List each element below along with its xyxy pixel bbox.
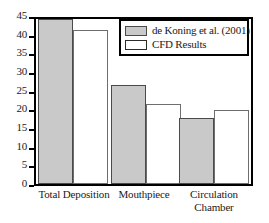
bar-mouthpiece-cfd bbox=[146, 104, 181, 184]
legend-label: CFD Results bbox=[152, 39, 206, 50]
y-tick-label: 20 bbox=[16, 103, 27, 114]
x-label-line: Chamber bbox=[174, 201, 254, 214]
bar-circulation-chamber-de-koning bbox=[179, 118, 214, 184]
legend-label: de Koning et al. (2001) bbox=[152, 25, 250, 36]
y-tick-label: 35 bbox=[16, 47, 27, 58]
bar-group-total-deposition bbox=[38, 19, 108, 184]
bar-circulation-chamber-cfd bbox=[214, 110, 249, 184]
bar-chart-figure: 45 40 35 30 25 20 15 10 bbox=[0, 0, 269, 223]
x-label-mouthpiece: Mouthpiece bbox=[104, 188, 184, 201]
y-tick-label: 15 bbox=[16, 122, 27, 133]
bar-total-deposition-de-koning bbox=[38, 19, 73, 184]
y-tick-label: 0 bbox=[22, 178, 27, 189]
legend-entry-cfd-results: CFD Results bbox=[125, 38, 243, 51]
legend-entry-de-koning: de Koning et al. (2001) bbox=[125, 24, 243, 37]
y-tick-label: 45 bbox=[16, 10, 27, 21]
x-label-line: Circulation bbox=[174, 188, 254, 201]
bar-total-deposition-cfd bbox=[73, 30, 108, 184]
y-tick-label: 25 bbox=[16, 85, 27, 96]
bar-mouthpiece-de-koning bbox=[111, 85, 146, 184]
legend-swatch-outline-white-icon bbox=[125, 40, 147, 50]
y-tick-label: 10 bbox=[16, 141, 27, 152]
x-axis-labels: Total Deposition Mouthpiece Circulation … bbox=[34, 188, 253, 223]
y-tick-label: 5 bbox=[22, 159, 27, 170]
x-label-line: Mouthpiece bbox=[104, 188, 184, 201]
legend: de Koning et al. (2001) CFD Results bbox=[119, 19, 249, 56]
y-tick-label: 40 bbox=[16, 29, 27, 40]
y-tick-label: 30 bbox=[16, 66, 27, 77]
legend-swatch-filled-gray-icon bbox=[125, 26, 147, 36]
x-label-circulation-chamber: Circulation Chamber bbox=[174, 188, 254, 213]
